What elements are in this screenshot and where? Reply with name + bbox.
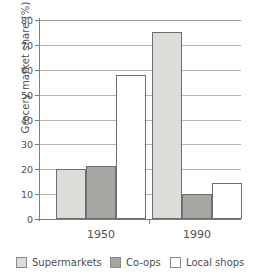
legend-item-local-shops[interactable]: Local shops [170, 257, 244, 268]
gridline [39, 45, 241, 46]
y-axis-tick-label: 50 [21, 89, 33, 100]
plot-area: 01020304050607080 19501990 [39, 20, 241, 219]
y-axis-tick-label: 10 [21, 189, 33, 200]
x-axis-label-1950: 1950 [87, 228, 115, 241]
y-axis-tick-label: 40 [21, 114, 33, 125]
legend-label: Supermarkets [32, 257, 102, 268]
y-axis-tick-label: 20 [21, 164, 33, 175]
bar-1950-supermarkets [56, 169, 86, 219]
gridline [39, 70, 241, 71]
y-axis-tick-label: 60 [21, 64, 33, 75]
bar-1990-local-shops [212, 183, 242, 219]
bar-1950-local-shops [116, 75, 146, 219]
x-axis-label-1990: 1990 [183, 228, 211, 241]
legend-label: Co-ops [126, 257, 161, 268]
legend-item-co-ops[interactable]: Co-ops [110, 257, 161, 268]
y-axis-line [39, 18, 40, 221]
legend-label: Local shops [186, 257, 244, 268]
chart-legend: SupermarketsCo-opsLocal shops [0, 257, 253, 277]
legend-item-supermarkets[interactable]: Supermarkets [16, 257, 102, 268]
bar-chart-figure: Grocery market share (%) 010203040506070… [0, 0, 253, 279]
bar-1950-co-ops [86, 166, 116, 219]
legend-swatch-icon [16, 257, 27, 268]
legend-swatch-icon [110, 257, 121, 268]
y-axis-tick-label: 30 [21, 139, 33, 150]
y-axis-tick-label: 80 [21, 15, 33, 26]
y-axis-tick-label: 70 [21, 39, 33, 50]
y-axis-tick-label: 0 [27, 214, 33, 225]
x-axis-line [39, 219, 241, 220]
bar-1990-co-ops [182, 194, 212, 219]
gridline [39, 20, 241, 21]
legend-swatch-icon [170, 257, 181, 268]
bar-1990-supermarkets [152, 32, 182, 219]
x-axis-group-separator-tick [149, 219, 150, 224]
